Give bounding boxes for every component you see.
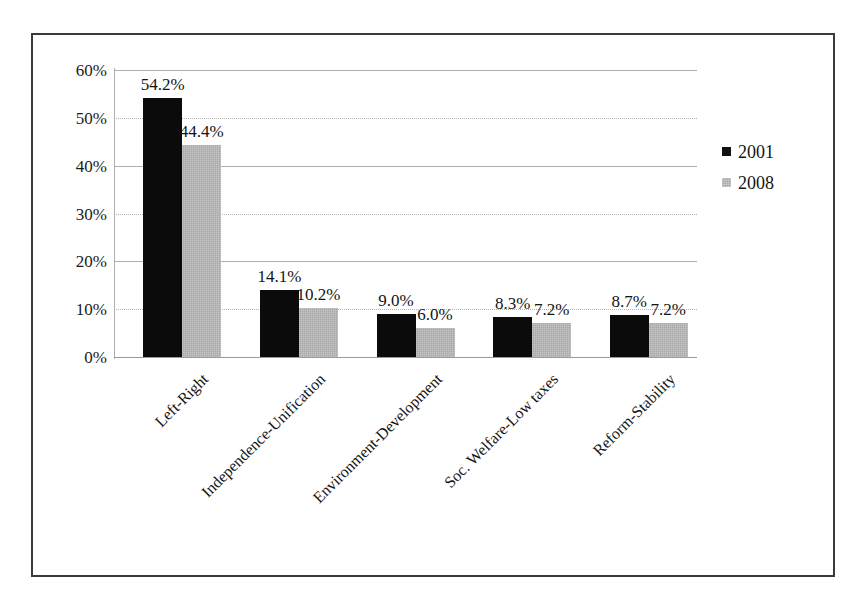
y-tick-label: 10% [47, 301, 107, 318]
legend-item-2008[interactable]: 2008 [722, 167, 822, 198]
gray-square-icon [722, 178, 731, 187]
gridline-50 [114, 118, 697, 119]
y-axis-tick-labels: 0%10%20%30%40%50%60% [41, 70, 107, 357]
black-square-icon [722, 147, 731, 156]
chart-legend: 20012008 [722, 136, 822, 198]
y-tick-label: 20% [47, 253, 107, 270]
bar-value-label: 14.1% [249, 268, 310, 285]
bar-2008-soc-welfare-low-taxes[interactable] [532, 323, 571, 357]
y-tick-label: 40% [47, 157, 107, 174]
bar-value-label: 6.0% [405, 306, 466, 323]
gridline-60 [114, 70, 697, 71]
category-label-environment-development: Environment-Development [310, 371, 445, 506]
category-label-soc-welfare-low-taxes: Soc. Welfare-Low taxes [442, 371, 562, 491]
bar-2008-reform-stability[interactable] [649, 323, 688, 357]
y-tick-label: 30% [47, 205, 107, 222]
bar-2001-reform-stability[interactable] [610, 315, 649, 357]
category-label-independence-unification: Independence-Unification [199, 371, 328, 500]
bar-2001-soc-welfare-low-taxes[interactable] [493, 317, 532, 357]
category-label-left-right: Left-Right [153, 371, 212, 430]
legend-item-2001[interactable]: 2001 [722, 136, 822, 167]
bar-2008-left-right[interactable] [182, 145, 221, 357]
bar-value-label: 7.2% [521, 301, 582, 318]
category-label-reform-stability: Reform-Stability [590, 371, 678, 459]
legend-label: 2001 [738, 143, 774, 161]
bar-value-label: 10.2% [288, 286, 349, 303]
y-tick-label: 60% [47, 62, 107, 79]
plot-area: 54.2%44.4%14.1%10.2%9.0%6.0%8.3%7.2%8.7%… [114, 70, 697, 357]
bar-2008-independence-unification[interactable] [299, 308, 338, 357]
bar-value-label: 7.2% [638, 301, 699, 318]
bar-value-label: 54.2% [132, 76, 193, 93]
figure-frame: 0%10%20%30%40%50%60% 54.2%44.4%14.1%10.2… [31, 33, 835, 577]
legend-label: 2008 [738, 174, 774, 192]
bar-2008-environment-development[interactable] [416, 328, 455, 357]
bar-chart: 0%10%20%30%40%50%60% 54.2%44.4%14.1%10.2… [33, 35, 833, 575]
bar-value-label: 44.4% [171, 123, 232, 140]
y-tick-label: 0% [47, 349, 107, 366]
y-tick-label: 50% [47, 109, 107, 126]
gridline-0 [114, 357, 697, 358]
